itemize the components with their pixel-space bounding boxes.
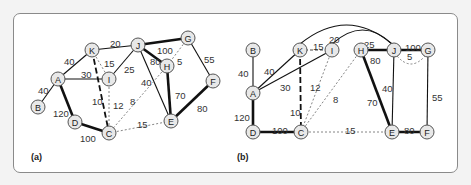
svg-text:J: J: [392, 46, 397, 56]
node-b-D: D: [246, 125, 260, 139]
edge-weight-a-IC: 12: [113, 100, 124, 111]
svg-text:H: H: [164, 62, 171, 72]
svg-text:E: E: [389, 128, 395, 138]
edge-weight-b-CE: 15: [345, 125, 356, 136]
edge-weight-a-KI: 15: [104, 58, 115, 69]
node-a-K: K: [85, 43, 99, 57]
edge-G-F: [427, 50, 428, 132]
edge-weight-a-AI: 30: [81, 69, 92, 80]
edge-weight-b-DC: 100: [272, 125, 288, 136]
svg-text:D: D: [250, 128, 257, 138]
edge-weight-b-KC: 10: [290, 107, 301, 118]
edge-weight-b-AI: 30: [280, 82, 291, 93]
edge-F-E: [171, 81, 213, 121]
edge-weight-a-CE: 15: [137, 119, 148, 130]
edge-weight-a-HC: 8: [130, 96, 135, 107]
svg-text:J: J: [136, 41, 141, 51]
svg-text:K: K: [89, 46, 95, 56]
edge-K-C: [300, 50, 301, 132]
svg-text:C: C: [106, 129, 113, 139]
edge-weight-a-IJ: 25: [124, 64, 135, 75]
edge-I-J: [332, 30, 392, 44]
node-b-J: J: [387, 43, 401, 57]
node-a-A: A: [51, 72, 65, 86]
node-a-D: D: [68, 115, 82, 129]
edge-weight-b-HJ: 80: [370, 55, 381, 66]
svg-text:C: C: [298, 128, 305, 138]
node-a-H: H: [160, 59, 174, 73]
node-b-C: C: [294, 125, 308, 139]
edge-weight-b-GF: 55: [432, 92, 443, 103]
node-b-B: B: [246, 43, 260, 57]
edge-J-G: [138, 38, 188, 45]
graph-b-edges: [253, 25, 428, 132]
svg-text:A: A: [250, 89, 256, 99]
edge-weight-a-KC: 10: [92, 96, 103, 107]
node-a-E: E: [164, 114, 178, 128]
node-a-C: C: [102, 126, 116, 140]
edge-weight-b-HC: 8: [333, 94, 338, 105]
svg-text:I: I: [108, 75, 111, 85]
panel-label-a: (a): [31, 152, 42, 162]
svg-text:B: B: [35, 103, 41, 113]
edge-weight-a-FE: 80: [197, 103, 208, 114]
edge-weight-b-EF: 80: [404, 125, 415, 136]
edge-weight-b-JG: 5: [407, 51, 412, 62]
node-a-G: G: [181, 31, 195, 45]
svg-text:A: A: [55, 75, 61, 85]
svg-text:F: F: [210, 77, 216, 87]
edge-weight-a-DC: 100: [80, 133, 96, 144]
edge-weight-a-AB: 40: [38, 85, 49, 96]
node-a-F: F: [206, 74, 220, 88]
svg-text:E: E: [168, 117, 174, 127]
edge-weight-a-JE: 40: [141, 77, 152, 88]
node-b-E: E: [385, 125, 399, 139]
node-b-K: K: [293, 43, 307, 57]
edge-weight-b-IC: 12: [310, 82, 321, 93]
graph-canvas: 4040301202015102512100804055570880100154…: [0, 0, 471, 185]
edge-weight-b-BA: 40: [238, 68, 249, 79]
panel-label-b: (b): [237, 152, 249, 162]
svg-text:G: G: [424, 46, 431, 56]
edge-weight-a-GF: 55: [204, 54, 215, 65]
svg-text:B: B: [250, 46, 256, 56]
svg-text:G: G: [184, 34, 191, 44]
node-b-F: F: [420, 125, 434, 139]
svg-text:K: K: [297, 46, 303, 56]
node-b-G: G: [421, 43, 435, 57]
edge-weight-a-HE: 70: [175, 90, 186, 101]
edge-weight-b-KI: 15: [313, 41, 324, 52]
edge-weight-b-HE: 70: [367, 97, 378, 108]
node-a-J: J: [131, 38, 145, 52]
node-a-B: B: [31, 100, 45, 114]
node-b-I: I: [325, 43, 339, 57]
edge-weight-a-JH: 80: [150, 56, 161, 67]
edge-weight-a-GH: 5: [177, 56, 182, 67]
node-a-I: I: [102, 72, 116, 86]
svg-text:D: D: [72, 118, 79, 128]
node-b-A: A: [246, 86, 260, 100]
edge-weight-a-KJ: 20: [110, 38, 121, 49]
edge-weight-a-JG: 100: [157, 45, 173, 56]
edge-weight-b-AK: 40: [264, 66, 275, 77]
svg-text:F: F: [424, 128, 430, 138]
svg-text:I: I: [331, 46, 334, 56]
edge-weight-a-AK: 40: [64, 56, 75, 67]
edge-weight-a-AD: 120: [53, 108, 69, 119]
edge-weight-b-AD: 120: [234, 112, 250, 123]
node-b-H: H: [354, 43, 368, 57]
edge-weight-b-JE: 40: [382, 83, 393, 94]
svg-text:H: H: [358, 46, 365, 56]
